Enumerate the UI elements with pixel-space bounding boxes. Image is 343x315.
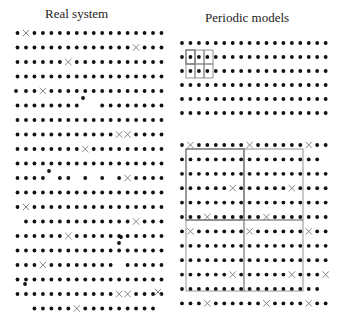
atom-dot (41, 60, 45, 64)
atom-dot (75, 263, 79, 267)
atom-dot (16, 31, 20, 35)
atom-dot (126, 278, 130, 282)
atom-dot (197, 302, 201, 306)
atom-dot (180, 186, 184, 190)
atom-dot (248, 258, 252, 262)
vacancy-cross-icon (65, 59, 71, 65)
atom-dot (117, 89, 121, 93)
atom-dot (41, 118, 45, 122)
atom-dot (273, 273, 277, 277)
atom-dot (290, 69, 294, 73)
atom-dot (58, 147, 62, 151)
atom-dot (134, 60, 138, 64)
atom-dot (100, 31, 104, 35)
atom-dot (180, 287, 184, 291)
atom-dot (83, 176, 87, 180)
atom-dot (265, 158, 269, 162)
small-periodic-model (180, 41, 327, 115)
lattice-canvas (0, 0, 343, 315)
atom-dot (197, 69, 201, 73)
atom-dot (24, 75, 28, 79)
atom-dot (256, 41, 260, 45)
atom-dot (100, 60, 104, 64)
atom-dot (109, 118, 113, 122)
atom-dot (282, 172, 286, 176)
atom-dot (143, 60, 147, 64)
atom-dot (307, 55, 311, 59)
atom-dot (248, 111, 252, 115)
atom-dot (92, 60, 96, 64)
atom-dot (265, 83, 269, 87)
atom-dot (282, 83, 286, 87)
atom-dot (92, 133, 96, 137)
atom-dot (265, 287, 269, 291)
atom-dot (33, 263, 37, 267)
atom-dot (49, 118, 53, 122)
vacancy-cross-icon (230, 185, 236, 191)
atom-dot (100, 46, 104, 50)
atom-dot (205, 69, 209, 73)
atom-dot (100, 118, 104, 122)
atom-dot (75, 133, 79, 137)
atom-dot (33, 46, 37, 50)
atom-dot (151, 263, 155, 267)
atom-dot (307, 111, 311, 115)
atom-dot (16, 75, 20, 79)
atom-dot (189, 302, 193, 306)
atom-dot (273, 201, 277, 205)
atom-dot (143, 75, 147, 79)
atom-dot (66, 162, 70, 166)
atom-dot (16, 60, 20, 64)
atom-dot (24, 263, 28, 267)
atom-dot (282, 158, 286, 162)
atom-dot (214, 97, 218, 101)
atom-dot (33, 147, 37, 151)
atom-dot (126, 249, 130, 253)
atom-dot (66, 46, 70, 50)
atom-dot (222, 201, 226, 205)
atom-dot (151, 104, 155, 108)
atom-dot (41, 75, 45, 79)
atom-dot (160, 220, 164, 224)
vacancy-cross-icon (289, 271, 295, 277)
atom-dot (58, 31, 62, 35)
atom-dot (143, 220, 147, 224)
atom-dot (134, 205, 138, 209)
atom-dot (83, 278, 87, 282)
atom-dot (214, 287, 218, 291)
atom-dot (256, 143, 260, 147)
atom-dot (117, 176, 121, 180)
atom-dot (117, 31, 121, 35)
atom-dot (222, 302, 226, 306)
vacancy-cross-icon (40, 262, 46, 268)
atom-dot (307, 273, 311, 277)
atom-dot (180, 302, 184, 306)
atom-dot (160, 176, 164, 180)
atom-dot (205, 97, 209, 101)
atom-dot (151, 118, 155, 122)
vacancy-cross-icon (187, 228, 193, 234)
atom-dot (92, 292, 96, 296)
atom-dot (214, 186, 218, 190)
atom-dot (109, 31, 113, 35)
atom-dot (290, 244, 294, 248)
atom-dot (16, 118, 20, 122)
atom-dot (33, 162, 37, 166)
atom-dot (41, 191, 45, 195)
atom-dot (239, 186, 243, 190)
atom-dot (75, 31, 79, 35)
atom-dot (49, 89, 53, 93)
atom-dot (180, 158, 184, 162)
atom-dot (239, 230, 243, 234)
atom-dot (239, 158, 243, 162)
atom-dot (324, 186, 328, 190)
atom-dot (290, 111, 294, 115)
atom-dot (248, 287, 252, 291)
atom-dot (16, 205, 20, 209)
atom-dot (24, 118, 28, 122)
atom-dot (151, 162, 155, 166)
atom-dot (282, 201, 286, 205)
atom-dot (143, 191, 147, 195)
atom-dot (151, 133, 155, 137)
atom-dot (92, 307, 96, 311)
